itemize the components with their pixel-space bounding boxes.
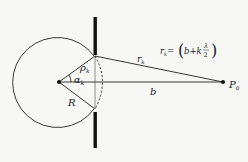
svg-text:λ: λ	[203, 42, 208, 50]
screen-upper	[94, 17, 97, 55]
source-point	[57, 80, 61, 84]
svg-text:rk=: rk=	[160, 46, 174, 57]
svg-text:2: 2	[204, 51, 208, 59]
p0-point	[221, 80, 225, 84]
background	[0, 0, 248, 162]
screen-lower	[94, 112, 97, 148]
svg-text:): )	[211, 41, 217, 60]
svg-text:b+k: b+k	[184, 46, 202, 56]
R-label: R	[67, 97, 76, 108]
fresnel-zone-diagram: ρk αk R rk b P0 rk= ( b+k λ 2 )	[0, 0, 248, 162]
b-label: b	[150, 86, 156, 97]
